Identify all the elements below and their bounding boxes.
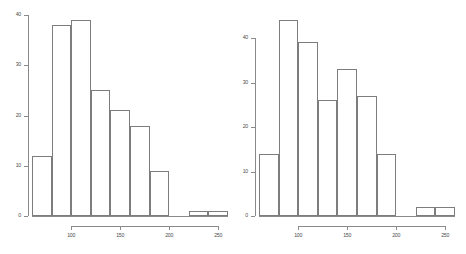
y-axis-tick-label: 20	[234, 124, 248, 129]
y-axis-tick	[251, 38, 255, 39]
x-axis-tick	[298, 226, 299, 230]
histogram-bar	[71, 20, 91, 216]
histogram-bar	[259, 154, 279, 216]
x-axis-tick	[396, 226, 397, 230]
histogram-panel-right: 010203040100150200250	[233, 0, 466, 254]
y-axis-tick	[251, 83, 255, 84]
x-axis-tick	[120, 226, 121, 230]
x-axis-tick-label: 250	[435, 233, 455, 238]
x-axis-tick-label: 200	[386, 233, 406, 238]
y-axis-tick-label: 40	[234, 35, 248, 40]
x-axis-tick-label: 100	[288, 233, 308, 238]
histogram-bar	[208, 211, 228, 216]
histogram-bar	[52, 25, 72, 216]
y-axis-tick	[24, 116, 28, 117]
histogram-bar	[110, 110, 130, 216]
y-axis-tick	[251, 127, 255, 128]
plot-area-left: 010203040100150200250	[0, 0, 233, 254]
y-axis-tick-label: 30	[234, 80, 248, 85]
histogram-bar	[416, 207, 436, 216]
y-axis-tick	[24, 65, 28, 66]
y-axis-tick-label: 20	[7, 113, 21, 118]
x-axis-tick-label: 150	[110, 233, 130, 238]
histogram-baseline	[32, 216, 228, 217]
x-axis-tick-label: 100	[61, 233, 81, 238]
y-axis-tick-label: 10	[7, 163, 21, 168]
x-axis-line	[71, 226, 218, 227]
y-axis-tick-label: 10	[234, 169, 248, 174]
y-axis-tick-label: 30	[7, 62, 21, 67]
y-axis-tick-label: 40	[7, 12, 21, 17]
y-axis-tick	[24, 216, 28, 217]
histogram-baseline	[259, 216, 455, 217]
plot-area-right: 010203040100150200250	[233, 0, 466, 254]
y-axis-line	[28, 15, 29, 216]
histogram-bar	[130, 126, 150, 216]
histogram-bar	[279, 20, 299, 216]
y-axis-tick	[251, 216, 255, 217]
y-axis-tick-label: 0	[234, 213, 248, 218]
x-axis-line	[298, 226, 445, 227]
x-axis-tick-label: 150	[337, 233, 357, 238]
histogram-bar	[32, 156, 52, 216]
histogram-bar	[150, 171, 170, 216]
figure-canvas: 010203040100150200250 010203040100150200…	[0, 0, 466, 254]
y-axis-tick-label: 0	[7, 213, 21, 218]
histogram-bar	[435, 207, 455, 216]
histogram-bar	[91, 90, 111, 216]
y-axis-tick	[251, 172, 255, 173]
x-axis-tick	[445, 226, 446, 230]
x-axis-tick	[218, 226, 219, 230]
x-axis-tick-label: 200	[159, 233, 179, 238]
x-axis-tick	[169, 226, 170, 230]
histogram-bar	[318, 100, 338, 216]
histogram-bar	[337, 69, 357, 216]
histogram-bar	[189, 211, 209, 216]
x-axis-tick	[347, 226, 348, 230]
histogram-panel-left: 010203040100150200250	[0, 0, 233, 254]
histogram-bar	[377, 154, 397, 216]
y-axis-line	[255, 38, 256, 216]
histogram-bar	[357, 96, 377, 216]
y-axis-tick	[24, 166, 28, 167]
y-axis-tick	[24, 15, 28, 16]
x-axis-tick-label: 250	[208, 233, 228, 238]
histogram-bar	[298, 42, 318, 216]
x-axis-tick	[71, 226, 72, 230]
